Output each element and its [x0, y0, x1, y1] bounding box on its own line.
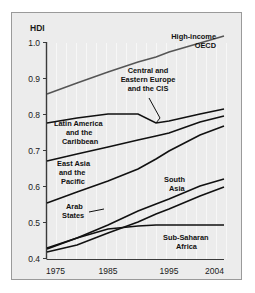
y-axis-title: HDI: [30, 23, 45, 33]
series-label-sub-saharan-africa: Sub-Saharan Africa: [163, 233, 209, 251]
series-label-line2: and the: [66, 128, 92, 137]
x-tick-label-1975: 1975: [46, 266, 65, 276]
series-label-high-income-oecd: High-income OECD: [171, 32, 216, 50]
chart-frame: HDI 1.0 0.9 0.8 0.7 0.6 0.5 0.4 1975 198…: [11, 12, 242, 280]
series-label-line1: Central and: [128, 66, 169, 75]
x-tick-label-2004: 2004: [205, 266, 224, 276]
y-tick-label-0.9: 0.9: [28, 74, 40, 84]
series-label-line2: Africa: [176, 242, 198, 251]
series-label-line2: Asia: [169, 184, 186, 193]
y-tick-label-0.5: 0.5: [28, 218, 40, 228]
x-tick-label-1985: 1985: [99, 266, 118, 276]
series-label-line1: South: [164, 175, 185, 184]
series-label-line1: Arab: [66, 202, 83, 211]
leader-line-central-eastern-europe: [149, 98, 160, 123]
y-tick-label-1.0: 1.0: [28, 38, 40, 48]
series-label-central-eastern-europe-cis: Central and Eastern Europe and the CIS: [121, 66, 176, 93]
series-label-line2: and the: [59, 168, 85, 177]
series-label-line2: Eastern Europe: [121, 75, 176, 84]
series-label-line3: Pacific: [61, 177, 85, 186]
y-tick-label-0.7: 0.7: [28, 146, 40, 156]
series-label-east-asia-pacific: East Asia and the Pacific: [57, 159, 91, 186]
series-label-south-asia: South Asia: [164, 175, 186, 193]
series-label-arab-states: Arab States: [62, 202, 84, 220]
series-label-line1: East Asia: [57, 159, 91, 168]
y-tick-label-0.8: 0.8: [28, 110, 40, 120]
series-label-line1: Sub-Saharan: [163, 233, 209, 242]
x-tick-label-1995: 1995: [160, 266, 179, 276]
series-label-line3: Caribbean: [62, 137, 99, 146]
y-tick-label-0.4: 0.4: [28, 254, 40, 264]
hdi-trend-line-chart: HDI 1.0 0.9 0.8 0.7 0.6 0.5 0.4 1975 198…: [12, 13, 241, 279]
y-tick-label-0.6: 0.6: [28, 182, 40, 192]
series-label-line2: States: [62, 211, 84, 220]
series-label-line3: and the CIS: [128, 84, 169, 93]
series-label-line2: OECD: [195, 41, 217, 50]
series-label-line1: Latin America: [54, 119, 103, 128]
figure-container: HDI 1.0 0.9 0.8 0.7 0.6 0.5 0.4 1975 198…: [0, 0, 255, 293]
series-label-line1: High-income: [171, 32, 216, 41]
